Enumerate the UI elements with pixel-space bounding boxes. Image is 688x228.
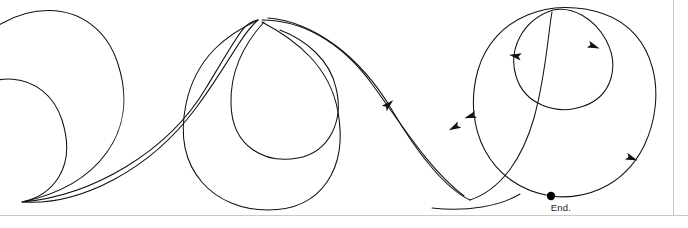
curve-layer xyxy=(0,8,656,210)
curve-right-inner-loop xyxy=(514,9,613,109)
curve-outer-sweep-lower xyxy=(0,20,258,202)
curve-right-big-loop xyxy=(473,8,655,197)
arrowhead-glyph xyxy=(508,51,521,60)
arrow-inner-right-icon xyxy=(587,41,601,52)
curve-mid-loop-inner xyxy=(231,22,338,159)
curve-outer-sweep-upper xyxy=(0,10,258,202)
frame-border xyxy=(0,0,688,216)
end-label: End. xyxy=(551,202,571,213)
end-point-dot xyxy=(547,192,555,200)
spiral-trajectory-svg: End. xyxy=(0,0,688,228)
arrow-inner-left-icon xyxy=(508,51,521,60)
label-layer: End. xyxy=(551,202,571,213)
arrowhead-glyph xyxy=(587,41,601,52)
arrow-layer xyxy=(382,41,639,164)
arrow-downright-a-icon xyxy=(447,121,461,133)
arrowhead-glyph xyxy=(447,121,461,133)
marker-layer xyxy=(547,192,555,200)
curve-right-entry-curve xyxy=(470,12,552,200)
figure-canvas: End. xyxy=(0,0,688,228)
curve-mid-loop-outer xyxy=(183,20,340,210)
curve-bottom-tail xyxy=(432,194,520,209)
